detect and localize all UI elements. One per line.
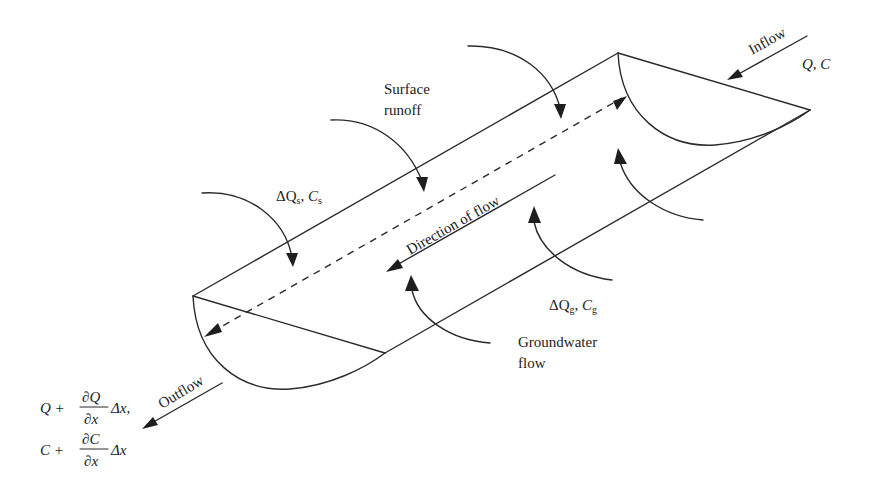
surface-flux-label: ΔQs, Cs (276, 188, 322, 206)
groundwater-flow-label: Groundwater flow (518, 334, 597, 371)
outflow-c-tail: Δx (110, 442, 127, 458)
arrowhead-up-icon (528, 206, 541, 223)
inflow-vars: Q, C (802, 56, 831, 72)
centerline-arrowhead-left (204, 323, 222, 337)
surface-runoff-arrow-2 (331, 120, 422, 181)
outflow-equations: Q + ∂Q ∂x Δx, C + ∂C ∂x Δx (40, 389, 130, 469)
svg-text:flow: flow (518, 355, 546, 371)
surface-runoff-arrow-3 (468, 46, 560, 108)
svg-text:Groundwater: Groundwater (518, 334, 597, 350)
svg-text:runoff: runoff (384, 102, 421, 118)
outflow-arrow: Outflow (142, 372, 222, 429)
groundwater-arrow-1 (412, 290, 490, 343)
inflow-arrow: Inflow Q, C (727, 24, 831, 80)
direction-of-flow-label: Direction of flow (404, 192, 503, 257)
groundwater-arrows (405, 148, 703, 343)
right-cross-section-chord (618, 53, 810, 110)
direction-of-flow-arrow: Direction of flow (386, 175, 555, 272)
outflow-c-num: ∂C (82, 431, 100, 447)
outflow-c-base: C + (40, 442, 64, 458)
outflow-c-den: ∂x (84, 453, 98, 469)
left-cross-section-chord (193, 296, 385, 353)
channel-body (193, 53, 810, 389)
outflow-q-num: ∂Q (82, 389, 100, 405)
stream-reach-diagram: Direction of flow Inflow Q, C Outflow Su… (0, 0, 873, 493)
groundwater-flux-label: ΔQg, Cg (549, 297, 597, 315)
arrowhead-down-icon (416, 177, 428, 192)
arrowhead-down-icon (554, 104, 566, 119)
left-cross-section-curve (193, 296, 385, 389)
centerline-arrowhead-right (613, 96, 627, 110)
inflow-label: Inflow (746, 24, 789, 57)
right-cross-section-curve (618, 53, 810, 145)
svg-text:Surface: Surface (384, 81, 430, 97)
outflow-q-den: ∂x (84, 411, 98, 427)
arrowhead-down-icon (286, 253, 298, 267)
outflow-q-tail: Δx, (110, 400, 130, 416)
arrowhead-up-icon (614, 148, 627, 164)
outflow-q-base: Q + (40, 400, 65, 416)
arrowhead-up-icon (405, 275, 419, 291)
surface-runoff-label: Surface runoff (384, 81, 430, 118)
